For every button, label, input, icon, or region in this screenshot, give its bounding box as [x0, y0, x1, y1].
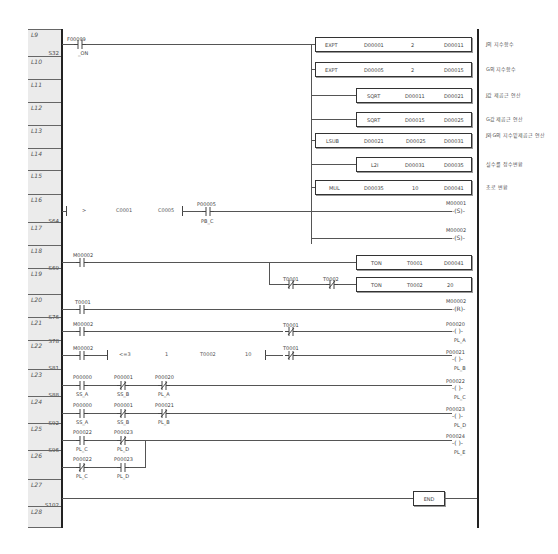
output-coil-icon[interactable]: -( )- — [452, 327, 463, 334]
coil-comment: PL_E — [454, 449, 465, 455]
contact-address: P00022 — [73, 456, 92, 462]
instruction-block-expt[interactable]: EXPT D00005 2 D00015 — [315, 62, 472, 77]
coil-comment: PL_A — [454, 337, 466, 343]
no-contact-icon[interactable] — [202, 207, 214, 216]
contact-comment: PL_B — [158, 419, 170, 425]
line-label: L18 — [31, 247, 42, 254]
no-contact-icon[interactable] — [76, 351, 88, 360]
line-label: L15 — [31, 172, 42, 179]
gutter-divider — [28, 194, 61, 195]
contact-comment: PL_C — [76, 473, 88, 479]
gutter-divider — [28, 369, 61, 370]
output-coil-icon[interactable]: -( )- — [452, 355, 463, 362]
gutter-divider — [28, 450, 61, 451]
line-label: L11 — [31, 81, 42, 88]
no-contact-icon[interactable] — [76, 409, 88, 418]
gutter-divider — [28, 56, 61, 57]
right-power-rail — [477, 29, 479, 528]
coil-address: M00001 — [446, 200, 466, 206]
contact-address: P00001 — [114, 402, 133, 408]
line-label: L10 — [31, 58, 42, 65]
output-coil-icon[interactable]: -( )- — [452, 384, 463, 391]
set-coil-icon[interactable]: -(S)- — [452, 207, 465, 214]
nc-contact-icon[interactable] — [326, 280, 338, 289]
line-label: L21 — [31, 319, 42, 326]
nc-contact-icon[interactable] — [285, 327, 297, 336]
instruction-comment: J값 제곱근 연산 — [486, 92, 546, 98]
gutter-divider — [28, 29, 61, 30]
instruction-block-mul[interactable]: MUL D00035 10 D00041 — [315, 180, 472, 195]
no-contact-icon[interactable] — [76, 258, 88, 267]
line-label: L20 — [31, 296, 42, 303]
line-label: L17 — [31, 224, 42, 231]
nc-contact-icon[interactable] — [117, 381, 129, 390]
line-label: L13 — [31, 127, 42, 134]
gutter-divider — [28, 317, 61, 318]
nc-contact-icon[interactable] — [158, 409, 170, 418]
output-coil-icon[interactable]: -( )- — [452, 439, 463, 446]
line-label: L26 — [31, 452, 42, 459]
gutter-divider — [28, 148, 61, 149]
no-contact-icon[interactable] — [117, 463, 129, 472]
reset-coil-icon[interactable]: -(R)- — [452, 305, 465, 312]
instruction-block-lsub[interactable]: LSUB D00021 D00025 D00031 — [315, 133, 472, 148]
coil-comment: PL_D — [454, 422, 466, 428]
contact-comment: SS_A — [76, 419, 88, 425]
instruction-comment: 실수를 정수변환 — [486, 161, 546, 167]
coil-address: M00002 — [446, 227, 466, 233]
instruction-comment: G값 제곱근 연산 — [486, 116, 546, 122]
line-label: L12 — [31, 104, 42, 111]
gutter-divider — [28, 423, 61, 424]
coil-address: M00002 — [446, 298, 466, 304]
nc-contact-icon[interactable] — [285, 351, 297, 360]
timer-block-ton[interactable]: TON T0002 20 — [356, 277, 472, 292]
contact-comment: SS_B — [117, 391, 129, 397]
line-label: L27 — [31, 481, 42, 488]
line-label: L23 — [31, 371, 42, 378]
instruction-block-l2i[interactable]: L2I D00031 D00035 — [356, 157, 472, 172]
line-label: L16 — [31, 196, 42, 203]
contact-address: P00000 — [73, 402, 92, 408]
contact-address: P00001 — [114, 374, 133, 380]
instruction-block-sqrt[interactable]: SQRT D00011 D00021 — [356, 88, 472, 103]
gutter-divider — [28, 102, 61, 103]
no-contact-icon[interactable] — [76, 327, 88, 336]
no-contact-icon[interactable] — [76, 305, 88, 314]
contact-comment: PL_C — [76, 446, 88, 452]
gutter-divider — [28, 396, 61, 397]
no-contact-icon[interactable] — [76, 436, 88, 445]
contact-address: P00020 — [155, 374, 174, 380]
left-power-rail — [61, 29, 63, 528]
contact-comment: SS_A — [76, 391, 88, 397]
instruction-comment: J와G의 지수밑제곱근 연산 — [486, 132, 546, 138]
line-label: L14 — [31, 150, 42, 157]
nc-contact-icon[interactable] — [117, 409, 129, 418]
contact-comment: PL_D — [117, 473, 129, 479]
nc-contact-icon[interactable] — [117, 436, 129, 445]
instruction-comment: J의 지수함수 — [486, 41, 546, 47]
end-instruction[interactable]: END — [413, 491, 445, 506]
gutter-divider — [28, 170, 61, 171]
nc-contact-icon[interactable] — [158, 381, 170, 390]
nc-contact-icon[interactable] — [285, 280, 297, 289]
contact-address: P00022 — [73, 429, 92, 435]
contact-address: P00000 — [73, 374, 92, 380]
instruction-block-expt[interactable]: EXPT D00001 2 D00011 — [315, 37, 472, 52]
output-coil-icon[interactable]: -( )- — [452, 412, 463, 419]
no-contact-icon[interactable] — [76, 381, 88, 390]
line-label: L28 — [31, 508, 42, 515]
contact-comment: PL_D — [117, 446, 129, 452]
gutter-divider — [28, 125, 61, 126]
nc-contact-icon[interactable] — [76, 463, 88, 472]
set-coil-icon[interactable]: -(S)- — [452, 234, 465, 241]
no-contact-icon[interactable] — [74, 40, 86, 49]
gutter-divider — [28, 506, 61, 507]
line-label: L25 — [31, 425, 42, 432]
timer-block-ton[interactable]: TON T0001 D00041 — [356, 255, 472, 270]
line-label: L19 — [31, 270, 42, 277]
instruction-comment: G의 지수함수 — [486, 66, 546, 72]
instruction-block-sqrt[interactable]: SQRT D00015 D00025 — [356, 112, 472, 127]
instruction-comment: 초로 변환 — [486, 184, 546, 190]
contact-address: P00021 — [155, 402, 174, 408]
contact-comment: PB_C — [201, 218, 213, 224]
